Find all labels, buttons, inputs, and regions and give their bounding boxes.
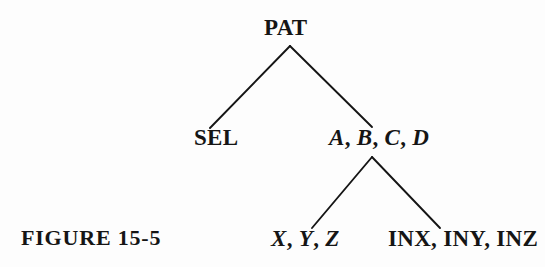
node-abcd-b: B — [357, 125, 373, 150]
tree-node-abcd: A, B, C, D — [329, 126, 429, 149]
node-abcd-a: A — [329, 125, 345, 150]
edge-abcd-to-xyz — [312, 157, 372, 228]
tree-node-pat: PAT — [264, 16, 308, 39]
node-abcd-d: D — [412, 125, 429, 150]
node-xyz-y: Y — [299, 226, 313, 251]
node-xyz-x: X — [271, 226, 287, 251]
node-abcd-c: C — [385, 125, 401, 150]
node-xyz-z: Z — [325, 226, 339, 251]
node-abcd-sep2: , — [372, 125, 384, 150]
node-abcd-sep3: , — [400, 125, 412, 150]
tree-node-xyz: X, Y, Z — [271, 227, 340, 250]
node-xyz-sep2: , — [313, 226, 325, 251]
edge-abcd-to-inxyz — [372, 157, 440, 228]
tree-node-inxyz: INX, INY, INZ — [388, 227, 538, 250]
edge-root-to-sel — [210, 46, 290, 128]
edge-root-to-abcd — [290, 46, 372, 127]
figure-canvas: PAT SEL A, B, C, D X, Y, Z INX, INY, INZ… — [0, 0, 545, 267]
node-abcd-sep1: , — [345, 125, 357, 150]
node-xyz-sep1: , — [287, 226, 299, 251]
figure-caption: FIGURE 15-5 — [21, 227, 161, 249]
tree-node-sel: SEL — [194, 126, 238, 149]
